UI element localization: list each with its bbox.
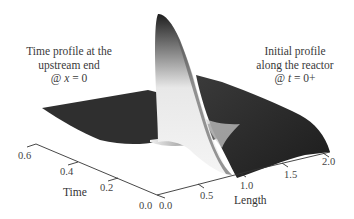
time-axis	[27, 144, 165, 198]
length-axis-label: Length	[234, 194, 267, 206]
time-tick-0.2: 0.2	[100, 182, 113, 193]
time-tick-0.4: 0.4	[60, 166, 73, 177]
time-axis-label: Time	[63, 186, 87, 198]
length-tick-1.5: 1.5	[284, 169, 297, 180]
length-tick-2.0: 2.0	[322, 156, 335, 167]
surface-left-sheet	[42, 90, 168, 144]
annotation-left-line2: upstream end	[14, 59, 124, 73]
length-tick-1.0: 1.0	[240, 180, 253, 191]
length-tick-0.0: 0.0	[159, 200, 172, 211]
annotation-right-line3: @ t = 0+	[240, 72, 350, 86]
time-tick-0.0: 0.0	[139, 200, 152, 211]
surface-plot	[0, 0, 354, 219]
annotation-left-line1: Time profile at the	[14, 45, 124, 59]
time-tick-0.6: 0.6	[18, 150, 31, 161]
annotation-initial-profile: Initial profile along the reactor @ t = …	[240, 45, 350, 86]
annotation-time-profile: Time profile at the upstream end @ x = 0	[14, 45, 124, 86]
annotation-left-line3: @ x = 0	[14, 72, 124, 86]
annotation-right-line2: along the reactor	[240, 59, 350, 73]
length-tick-0.5: 0.5	[200, 190, 213, 201]
annotation-right-line1: Initial profile	[240, 45, 350, 59]
